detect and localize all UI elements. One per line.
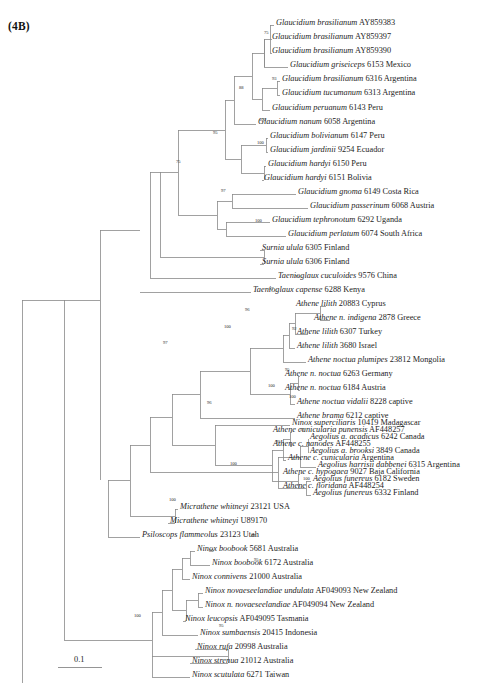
tip-label: Surnia ulula 6305 Finland bbox=[262, 244, 349, 252]
taxon-name: Glaucidium hardyi bbox=[264, 173, 327, 182]
bootstrap-value: 95 bbox=[295, 275, 300, 280]
taxon-accession-locality: 23121 USA bbox=[248, 502, 290, 511]
taxon-name: Psiloscops flammeolus bbox=[142, 530, 218, 539]
taxon-name: Athene n. noctua bbox=[285, 383, 341, 392]
tip-label: Aegolius a. acadicus 6242 Canada bbox=[310, 433, 425, 441]
taxon-accession-locality: 6182 Sweden bbox=[372, 474, 419, 483]
bootstrap-value: 75 bbox=[264, 31, 269, 36]
tip-label: Surnia ulula 6306 Finland bbox=[262, 258, 349, 266]
taxon-name: Aegolius funereus bbox=[313, 474, 372, 483]
taxon-name: Glaucidium bolivianum bbox=[270, 131, 349, 140]
tip-label: Glaucidium jardinii 9254 Ecuador bbox=[270, 146, 384, 154]
tip-label: Ninox scutulata 6271 Taiwan bbox=[192, 671, 289, 679]
taxon-name: Athene n. noctua bbox=[285, 369, 341, 378]
taxon-accession-locality: AY859397 bbox=[353, 32, 391, 41]
tip-label: Ninox novaeseelandiae undulata AF049093 … bbox=[205, 587, 397, 595]
taxon-accession-locality: 6305 Finland bbox=[303, 243, 349, 252]
taxon-name: Micrathene whitneyi bbox=[180, 502, 248, 511]
bootstrap-value: 97 bbox=[251, 534, 256, 539]
bootstrap-value: 97 bbox=[300, 428, 305, 433]
tip-label: Glaucidium tucumanum 6313 Argentina bbox=[282, 89, 415, 97]
tip-label: Glaucidium brasilianum AY859397 bbox=[272, 33, 391, 41]
taxon-name: Glaucidium tephronotum bbox=[272, 215, 355, 224]
taxon-name: Glaucidium jardinii bbox=[270, 145, 336, 154]
taxon-name: Glaucidium nanum bbox=[258, 117, 322, 126]
taxon-name: Taenioglaux capense bbox=[253, 285, 323, 294]
tip-label: Aegolius harrisii dabbenei 6315 Argentin… bbox=[318, 461, 460, 469]
tip-label: Glaucidium hardyi 6150 Peru bbox=[268, 160, 367, 168]
taxon-accession-locality: 20998 Australia bbox=[233, 642, 288, 651]
tip-label: Ninox leucopsis AF049095 Tasmania bbox=[185, 615, 309, 623]
bootstrap-value: 100 bbox=[257, 141, 264, 146]
bootstrap-value: 95 bbox=[213, 131, 218, 136]
taxon-accession-locality: 6332 Finland bbox=[372, 488, 418, 497]
tip-label: Glaucidium brasilianum AY859390 bbox=[272, 47, 391, 55]
bootstrap-value: 93 bbox=[272, 77, 277, 82]
tip-label: Ninox sumbaensis 20415 Indonesia bbox=[200, 629, 317, 637]
bootstrap-value: 100 bbox=[268, 384, 275, 389]
tip-label: Glaucidium gnoma 6149 Costa Rica bbox=[298, 188, 419, 196]
taxon-accession-locality: 9254 Ecuador bbox=[336, 145, 384, 154]
tip-label: Athene n. noctua 6184 Austria bbox=[285, 384, 386, 392]
tip-label: Glaucidium passerinum 6068 Austria bbox=[310, 202, 434, 210]
taxon-name: Glaucidium tucumanum bbox=[282, 88, 362, 97]
taxon-name: Glaucidium brasilianum bbox=[272, 46, 353, 55]
bootstrap-value: 100 bbox=[169, 498, 176, 503]
taxon-name: Glaucidium passerinum bbox=[310, 201, 390, 210]
tip-label: Ninox superciliaris 10419 Madagascar bbox=[292, 419, 421, 427]
taxon-accession-locality: 6242 Canada bbox=[379, 432, 425, 441]
taxon-name: Glaucidium hardyi bbox=[268, 159, 331, 168]
taxon-name: Athene n. indigena bbox=[314, 313, 376, 322]
bootstrap-value: 75 bbox=[176, 160, 181, 165]
taxon-accession-locality: 5681 Australia bbox=[247, 544, 298, 553]
bootstrap-value: 95 bbox=[276, 440, 281, 445]
taxon-name: Glaucidium perlatum bbox=[288, 229, 359, 238]
taxon-name: Athene noctua vidalii bbox=[297, 397, 368, 406]
taxon-accession-locality: 6306 Finland bbox=[303, 257, 349, 266]
taxon-accession-locality: 6149 Costa Rica bbox=[362, 187, 419, 196]
taxon-name: Glaucidium brasilianum bbox=[276, 18, 357, 27]
taxon-accession-locality: 3680 Israel bbox=[338, 341, 377, 350]
taxon-name: Athene noctua plumipes bbox=[308, 355, 388, 364]
taxon-name: Ninox boobook bbox=[197, 544, 247, 553]
taxon-name: Ninox sumbaensis bbox=[200, 628, 260, 637]
taxon-accession-locality: AY859383 bbox=[357, 18, 395, 27]
phylogenetic-tree-figure: (4B) bbox=[0, 0, 480, 683]
taxon-accession-locality: 6292 Uganda bbox=[355, 215, 402, 224]
taxon-name: Ninox rufa bbox=[197, 642, 233, 651]
taxon-name: Surnia ulula bbox=[262, 257, 303, 266]
tip-label: Athene noctua plumipes 23812 Mongolia bbox=[308, 356, 445, 364]
tip-label: Aegolius funereus 6332 Finland bbox=[313, 489, 418, 497]
taxon-name: Glaucidium gnoma bbox=[298, 187, 362, 196]
taxon-name: Ninox strenua bbox=[192, 656, 238, 665]
taxon-name: Athene lilith bbox=[296, 299, 337, 308]
tip-label: Glaucidium griseiceps 6153 Mexico bbox=[290, 61, 411, 69]
taxon-name: Surnia ulula bbox=[262, 243, 303, 252]
tip-label: Glaucidium nanum 6058 Argentina bbox=[258, 118, 375, 126]
taxon-accession-locality: 6074 South Africa bbox=[359, 229, 422, 238]
tip-label: Athene n. noctua 6263 Germany bbox=[285, 370, 393, 378]
taxon-accession-locality: 20883 Cyprus bbox=[337, 299, 386, 308]
taxon-name: Aegolius funereus bbox=[313, 488, 372, 497]
tip-label: Athene lilith 3680 Israel bbox=[297, 342, 377, 350]
bootstrap-value: 97 bbox=[269, 287, 274, 292]
taxon-accession-locality: 6153 Mexico bbox=[365, 60, 411, 69]
taxon-name: Athene lilith bbox=[297, 341, 338, 350]
tip-label: Glaucidium bolivianum 6147 Peru bbox=[270, 132, 385, 140]
taxon-accession-locality: 10419 Madagascar bbox=[356, 418, 421, 427]
taxon-name: Ninox n. novaeseelandiae bbox=[205, 600, 290, 609]
bootstrap-value: 100 bbox=[303, 477, 310, 482]
taxon-accession-locality: AF049093 New Zealand bbox=[314, 586, 398, 595]
taxon-accession-locality: 6151 Bolivia bbox=[327, 173, 372, 182]
taxon-accession-locality: 6184 Austria bbox=[341, 383, 386, 392]
bootstrap-value: 97 bbox=[163, 341, 168, 346]
taxon-accession-locality: 9576 China bbox=[356, 271, 397, 280]
taxon-name: Aegolius harrisii dabbenei bbox=[318, 460, 407, 469]
bootstrap-value: 92 bbox=[292, 327, 297, 332]
taxon-accession-locality: 6307 Turkey bbox=[338, 327, 382, 336]
bootstrap-value: 96 bbox=[245, 308, 250, 313]
taxon-name: Taenioglaux cuculoides bbox=[278, 271, 356, 280]
tip-label: Athene n. indigena 2878 Greece bbox=[314, 314, 421, 322]
taxon-name: Glaucidium peruanum bbox=[272, 103, 347, 112]
taxon-accession-locality: 8228 captive bbox=[368, 397, 413, 406]
